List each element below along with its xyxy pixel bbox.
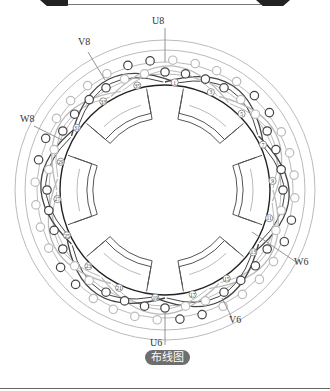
terminal-circle <box>181 70 189 78</box>
connection-band <box>238 164 243 217</box>
coil-end-dark <box>72 245 152 299</box>
terminal-circle <box>169 56 177 64</box>
terminal-circle <box>120 75 128 83</box>
slot-number: 21 <box>116 285 122 291</box>
terminal-circle <box>42 134 50 142</box>
terminal-circle <box>277 128 285 136</box>
terminal-circle <box>237 276 245 284</box>
terminal-circle <box>70 110 78 118</box>
terminal-circle <box>56 263 64 271</box>
terminal-circle <box>83 81 91 89</box>
phase-label-v8: V8 <box>78 36 90 47</box>
connection-band <box>233 166 237 215</box>
slot-number: 5 <box>240 111 243 117</box>
terminal-circle <box>201 75 209 83</box>
connection-band-light <box>104 253 141 274</box>
terminal-circle <box>176 315 184 323</box>
coil-end-dark <box>178 81 258 135</box>
slot-number: 31 <box>74 125 80 131</box>
guide-ring <box>49 74 281 306</box>
terminal-circle <box>161 68 169 76</box>
phase-label-w6: W6 <box>294 256 308 267</box>
slot-number: 33 <box>101 99 107 105</box>
terminal-circle <box>103 70 111 78</box>
terminal-circle <box>109 305 117 313</box>
slot-number: 13 <box>251 249 257 255</box>
slot-number: 15 <box>224 276 230 282</box>
guide-ring <box>25 50 305 330</box>
slot-number: 9 <box>271 178 274 184</box>
terminal-circle <box>272 226 280 234</box>
terminal-circle <box>251 262 259 270</box>
connection-band <box>179 241 225 267</box>
terminal-circle <box>237 95 245 103</box>
lead-wire <box>147 267 151 292</box>
winding-diagram: 1357911131517192123252729313335 <box>0 0 330 391</box>
connection-band <box>106 241 152 267</box>
terminal-circle <box>32 201 40 209</box>
terminal-circle <box>153 316 161 324</box>
lead-wire <box>225 241 244 257</box>
slot-number: 27 <box>55 196 61 202</box>
terminal-circle <box>220 84 228 92</box>
phase-label-u6: U6 <box>150 337 162 348</box>
terminal-circle <box>263 127 271 135</box>
terminal-circle <box>102 288 110 296</box>
terminal-circle <box>102 84 110 92</box>
terminal-circle <box>280 238 288 246</box>
terminal-circle <box>146 57 154 65</box>
terminal-circle <box>277 206 285 214</box>
terminal-circle <box>120 297 128 305</box>
connection-band-light <box>104 105 141 126</box>
stator-ring <box>60 85 270 295</box>
terminal-circle <box>59 245 67 253</box>
lead-wire <box>147 89 151 114</box>
terminal-circle <box>287 216 295 224</box>
slot-number: 25 <box>64 233 70 239</box>
terminal-circle <box>34 156 42 164</box>
terminal-circle <box>59 127 67 135</box>
connection-band <box>93 166 97 215</box>
caption-badge: 布线图 <box>145 350 190 365</box>
slot-number: 1 <box>173 80 176 86</box>
connection-band-light <box>250 169 253 211</box>
lead-wire <box>87 241 106 257</box>
terminal-circle <box>181 302 189 310</box>
terminal-circle <box>250 91 258 99</box>
terminal-circle <box>279 186 287 194</box>
terminal-circle <box>272 145 280 153</box>
connection-band-light <box>77 169 80 211</box>
terminal-circle <box>31 178 39 186</box>
terminal-circle <box>213 67 221 75</box>
slot-number: 17 <box>190 292 196 298</box>
connection-band <box>178 237 220 261</box>
lead-wire <box>225 123 244 139</box>
connection-band <box>178 119 220 143</box>
lead-wire <box>68 216 92 224</box>
terminal-circle <box>265 108 273 116</box>
terminal-circle <box>66 96 74 104</box>
terminal-circle <box>291 194 299 202</box>
terminal-circle <box>45 244 53 252</box>
terminal-circle <box>43 186 51 194</box>
slot-number: 11 <box>267 215 273 221</box>
terminal-circle <box>201 297 209 305</box>
lead-wire <box>87 123 106 139</box>
slot-number: 35 <box>135 83 141 89</box>
terminal-circle <box>198 310 206 318</box>
coil-end-light <box>56 97 110 177</box>
slot-number: 23 <box>86 263 92 269</box>
lead-wire <box>179 89 183 114</box>
terminal-circle <box>263 245 271 253</box>
connection-band-light <box>189 105 226 126</box>
terminal-circle <box>251 110 259 118</box>
slot-number: 3 <box>210 89 213 95</box>
terminal-circle <box>71 280 79 288</box>
terminal-circle <box>70 262 78 270</box>
terminal-circle <box>85 95 93 103</box>
terminal-circle <box>50 145 58 153</box>
slot-number: 7 <box>262 142 265 148</box>
phase-label-w8: W8 <box>20 113 34 124</box>
connection-band <box>110 119 152 143</box>
terminal-circle <box>36 223 44 231</box>
